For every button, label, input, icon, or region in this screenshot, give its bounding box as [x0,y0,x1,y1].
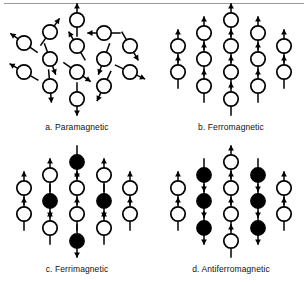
panel-paramagnetic: a. Paramagnetic [0,0,154,142]
spin-site-open [97,221,111,235]
spin-site-open [70,39,84,53]
spin-site-open [70,92,84,106]
spin-site-open [277,207,291,221]
spin-site-open [17,207,31,221]
spin-lattice-svg [154,148,308,264]
magnetic-ordering-figure: a. Paramagnetic b. Ferromagnetic c. Ferr… [0,0,308,284]
spin-site-open [43,221,57,235]
panel-ferromagnetic: b. Ferromagnetic [154,0,308,142]
panel-antiferromagnetic: d. Antiferromagnetic [154,142,308,284]
spin-lattice-svg [0,6,154,122]
spin-site-open [43,168,57,182]
spin-site-filled [251,221,265,235]
spin-site-open [224,13,238,27]
spin-site-open [224,65,238,79]
spin-site-open [224,181,238,195]
spin-site-open [97,26,111,40]
spin-site-open [97,168,111,182]
spin-site-filled [251,168,265,182]
spin-site-open [197,79,211,93]
spin-site-open [224,155,238,169]
spin-site-open [97,52,111,66]
spin-site-filled [43,194,57,208]
spin-site-filled [70,234,84,248]
spin-site-open [70,181,84,195]
spin-lattice-svg [154,6,308,122]
spin-site-open [224,39,238,53]
spin-site-open [197,26,211,40]
lattice-antiferromagnetic [154,148,308,264]
caption-antiferromagnetic: d. Antiferromagnetic [154,264,308,275]
spin-site-open [43,52,57,66]
spin-site-open [171,65,185,79]
spin-site-open [224,92,238,106]
spin-site-open [123,65,137,79]
spin-site-open [251,52,265,66]
spin-site-open [97,79,111,93]
spin-site-open [197,52,211,66]
spin-site-open [17,181,31,195]
caption-ferrimagnetic: c. Ferrimagnetic [0,264,154,275]
spin-site-open [224,234,238,248]
spin-site-open [70,65,84,79]
spin-site-open [123,181,137,195]
spin-site-open [43,79,57,93]
spin-site-open [277,181,291,195]
spin-site-open [171,181,185,195]
lattice-ferromagnetic [154,6,308,122]
spin-site-open [70,13,84,27]
spin-site-filled [197,194,211,208]
spin-site-open [224,207,238,221]
spin-site-open [171,39,185,53]
spin-site-open [123,39,137,53]
spin-site-filled [197,221,211,235]
caption-paramagnetic: a. Paramagnetic [0,122,154,133]
spin-site-open [277,65,291,79]
lattice-ferrimagnetic [0,148,154,264]
spin-site-filled [251,194,265,208]
spin-site-filled [70,155,84,169]
lattice-paramagnetic [0,6,154,122]
caption-ferromagnetic: b. Ferromagnetic [154,122,308,133]
spin-site-open [251,79,265,93]
spin-site-open [17,36,31,50]
spin-site-open [171,207,185,221]
spin-site-open [70,207,84,221]
spin-site-open [43,25,57,39]
spin-site-open [17,65,31,79]
spin-site-filled [97,194,111,208]
spin-site-open [251,26,265,40]
panel-ferrimagnetic: c. Ferrimagnetic [0,142,154,284]
spin-lattice-svg [0,148,154,264]
spin-site-open [123,207,137,221]
spin-site-open [277,39,291,53]
spin-site-filled [197,168,211,182]
